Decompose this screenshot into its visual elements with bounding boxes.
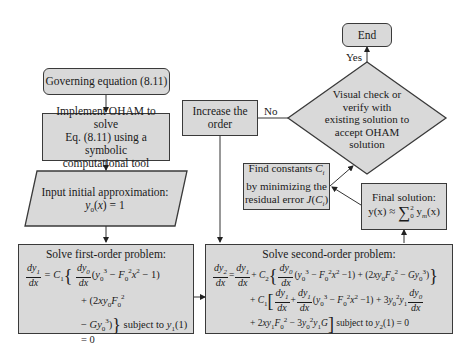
final-solution-formula: y(x) ≈ ∑20 ym(x) [368,204,440,223]
implement-line-1: Implement OHAM to solve [43,105,169,131]
first-order-eq-line-1: dy1dx = C1{ dy0dx(y03 − F02x2 − 1) [19,263,193,288]
second-order-node: Solve second-order problem: dy2dx=dy1dx+… [205,244,453,334]
first-order-node: Solve first-order problem: dy1dx = C1{ d… [18,244,194,334]
decision-line-2: verify with [307,101,427,114]
find-constants-line-3: residual error J(Ci) [245,193,328,211]
start-label: Governing equation (8.11) [46,75,168,88]
start-node: Governing equation (8.11) [43,68,170,95]
end-node: End [342,23,392,47]
second-order-eq-line-1: dy2dx=dy1dx+ C2{dy0dx(y03 − F02x2 −1) + … [206,263,452,288]
final-solution-node: Final solution: y(x) ≈ ∑20 ym(x) [361,183,447,230]
second-order-eq-line-3: + 2xy1F02 − 3y02y1G] subject to y2(1) = … [206,314,452,333]
decision-line-3: existing solution to [307,113,427,126]
decision-node-text: Visual check or verify with existing sol… [307,88,427,151]
find-constants-node: Find constants Ci by minimizing the resi… [243,163,330,210]
first-order-eq-line-2: + (2xy0F02 [19,291,193,311]
no-label: No [264,105,277,117]
input-line-2: y0(x) = 1 [30,199,180,217]
implement-node: Implement OHAM to solve Eq. (8.11) using… [42,113,170,161]
increase-line-2: order [208,118,232,131]
implement-line-3: computational tool [63,157,150,170]
first-order-eq-line-3: − Gy03)} subject to y1(1) = 0 [19,315,193,347]
end-label: End [358,29,377,42]
first-order-title: Solve first-order problem: [46,248,166,261]
find-constants-line-2: by minimizing the [246,180,327,193]
implement-line-2: Eq. (8.11) using a symbolic [43,131,169,157]
decision-line-1: Visual check or [307,88,427,101]
decision-line-4: accept OHAM [307,126,427,139]
input-node-text: Input initial approximation: y0(x) = 1 [30,186,180,217]
increase-order-node: Increase the order [182,100,258,136]
yes-label: Yes [346,51,362,63]
decision-line-5: solution [307,138,427,151]
find-constants-line-1: Find constants Ci [249,162,325,180]
second-order-title: Solve second-order problem: [262,248,396,261]
input-line-1: Input initial approximation: [30,186,180,199]
increase-line-1: Increase the [192,105,247,118]
second-order-eq-line-2: + C1[dy1dx+dy1dx(y03 − F02x2 −1) + 3y02y… [206,288,452,313]
